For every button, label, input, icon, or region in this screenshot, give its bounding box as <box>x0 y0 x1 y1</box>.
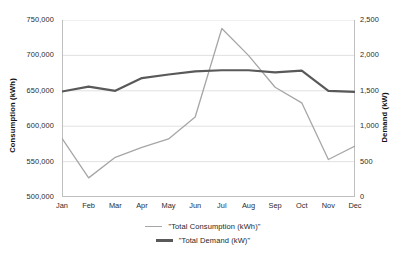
y-axis-right-tick-label: 0 <box>360 192 406 201</box>
x-axis-tick-label: Dec <box>348 201 361 210</box>
legend-swatch-icon <box>145 226 162 227</box>
chart-container: Consumption (kWh) Demand (kW) 500,000550… <box>0 0 406 266</box>
x-axis-tick-label: May <box>162 201 176 210</box>
x-axis-tick-label: Feb <box>82 201 95 210</box>
x-axis-tick-label: Aug <box>242 201 255 210</box>
legend-item[interactable]: "Total Consumption (kWh)" <box>145 222 260 231</box>
x-axis-tick-label: Nov <box>322 201 335 210</box>
y-axis-right-tick-label: 2,500 <box>360 15 406 24</box>
x-axis-tick-label: Sep <box>269 201 282 210</box>
y-axis-left-tick-label: 700,000 <box>8 50 54 59</box>
x-axis-tick-label: Oct <box>296 201 308 210</box>
y-axis-left-tick-label: 600,000 <box>8 121 54 130</box>
chart-legend: "Total Consumption (kWh)""Total Demand (… <box>0 222 406 245</box>
x-axis-tick-label: Mar <box>109 201 122 210</box>
y-axis-left-tick-label: 500,000 <box>8 192 54 201</box>
y-axis-right-tick-label: 2,000 <box>360 50 406 59</box>
legend-swatch-icon <box>156 239 173 241</box>
x-axis-tick-label: Jul <box>217 201 226 210</box>
x-axis-ticks: JanFebMarAprMayJunJulAugSepOctNovDec <box>62 201 355 217</box>
y-axis-right-tick-label: 500 <box>360 157 406 166</box>
plot-area <box>62 20 355 197</box>
legend-item-label: "Total Demand (kW)" <box>179 236 250 245</box>
y-axis-right-tick-label: 1,500 <box>360 86 406 95</box>
x-axis-tick-label: Jun <box>189 201 201 210</box>
legend-item-label: "Total Consumption (kWh)" <box>168 222 260 231</box>
series-line <box>62 29 355 178</box>
y-axis-left-tick-label: 750,000 <box>8 15 54 24</box>
x-axis-tick-label: Jan <box>56 201 68 210</box>
y-axis-left-tick-label: 550,000 <box>8 157 54 166</box>
legend-item[interactable]: "Total Demand (kW)" <box>156 236 250 245</box>
x-axis-tick-label: Apr <box>136 201 148 210</box>
y-axis-right-tick-label: 1,000 <box>360 121 406 130</box>
y-axis-left-tick-label: 650,000 <box>8 86 54 95</box>
